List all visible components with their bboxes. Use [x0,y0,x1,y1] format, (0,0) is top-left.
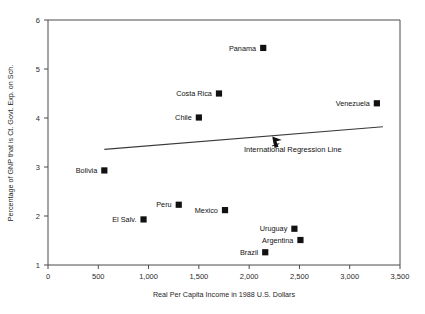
data-point-marker [216,90,222,96]
data-point-label: Chile [175,113,192,122]
data-point-label: Mexico [195,206,218,215]
data-point-label: Argentina [262,236,294,245]
data-point-label: El Salv. [112,215,136,224]
x-tick-label: 2,500 [290,272,309,281]
x-tick-label: 1,500 [189,272,208,281]
x-tick-label: 0 [46,272,50,281]
data-point-marker [140,216,146,222]
annotation-label: International Regression Line [244,145,342,154]
data-point-marker [262,249,268,255]
y-axis-title: Percentage of GNP that is Ct. Govt. Exp.… [6,65,15,221]
data-point-label: Uruguay [260,224,288,233]
y-tick-label: 1 [36,261,40,270]
y-tick-label: 3 [36,163,40,172]
x-axis-title: Real Per Capita Income in 1988 U.S. Doll… [153,290,296,299]
data-point-label: Venezuela [336,99,371,108]
data-point-marker [196,114,202,120]
x-tick-label: 2,000 [240,272,259,281]
data-point-label: Brazil [240,248,259,257]
data-point-label: Panama [229,44,257,53]
data-point-marker [101,167,107,173]
x-tick-label: 3,000 [340,272,359,281]
x-tick-label: 500 [92,272,105,281]
figure-background [0,0,425,314]
data-point-marker [291,226,297,232]
data-point-marker [222,207,228,213]
plot-canvas: 05001,0001,5002,0002,5003,0003,500 12345… [0,0,425,314]
data-point-label: Bolivia [76,166,98,175]
y-tick-label: 4 [36,114,40,123]
y-tick-label: 6 [36,16,40,25]
data-point-marker [297,237,303,243]
data-point-marker [374,100,380,106]
data-point-label: Peru [156,200,171,209]
data-point-marker [260,45,266,51]
x-tick-label: 1,000 [139,272,158,281]
data-point-marker [176,202,182,208]
scatter-plot-figure: 05001,0001,5002,0002,5003,0003,500 12345… [0,0,425,314]
y-tick-label: 5 [36,65,40,74]
y-tick-label: 2 [36,212,40,221]
x-tick-label: 3,500 [391,272,410,281]
data-point-label: Costa Rica [176,89,213,98]
